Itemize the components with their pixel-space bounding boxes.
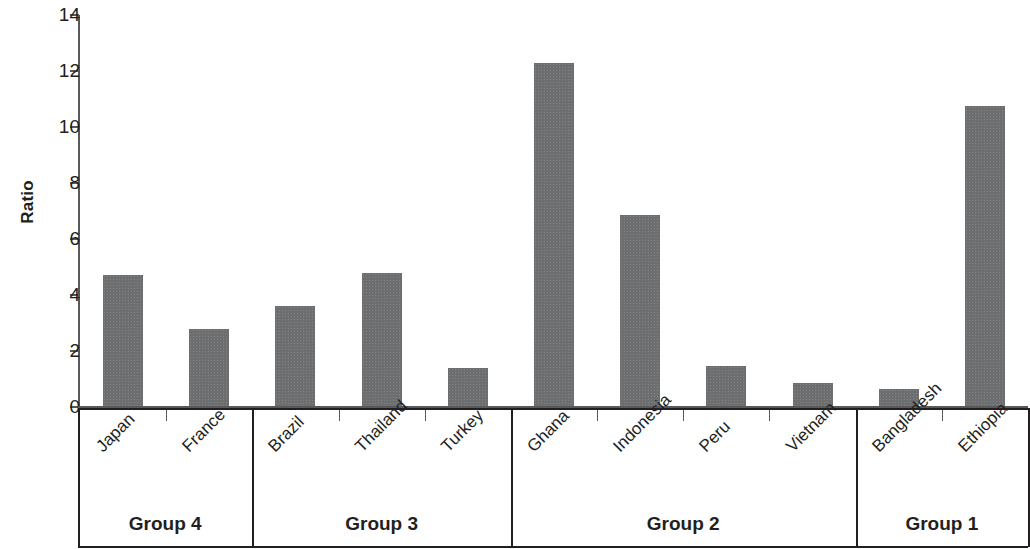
- x-axis-category-label: Turkey: [438, 407, 486, 455]
- bar: [189, 329, 229, 407]
- group-label: Group 4: [78, 513, 252, 535]
- x-axis-category-label: Brazil: [265, 413, 307, 455]
- bar: [275, 306, 315, 407]
- group-label: Group 3: [252, 513, 511, 535]
- bar-chart: Ratio 14121086420 JapanFranceBrazilThail…: [0, 0, 1030, 549]
- y-axis-tick-label: 10: [36, 117, 80, 136]
- y-axis-tick-label: 14: [36, 5, 80, 24]
- bar: [965, 106, 1005, 407]
- bar: [103, 275, 143, 407]
- y-axis-tick-label: 2: [36, 341, 80, 360]
- bar: [620, 215, 660, 407]
- x-axis-category-label: Ghana: [524, 407, 572, 455]
- y-axis-tick-label: 6: [36, 229, 80, 248]
- x-axis-category-label: France: [179, 406, 228, 455]
- y-axis-tick-label: 4: [36, 285, 80, 304]
- bar: [448, 368, 488, 407]
- y-axis-tick-label: 8: [36, 173, 80, 192]
- bar: [706, 366, 746, 407]
- plot-area: [80, 15, 1028, 407]
- x-axis-category-label: Peru: [696, 418, 733, 455]
- y-axis-tick-label: 0: [36, 397, 80, 416]
- bar: [534, 63, 574, 407]
- group-label: Group 1: [856, 513, 1028, 535]
- y-axis-title: Ratio: [18, 162, 38, 242]
- group-band-top-rule: [78, 408, 1028, 410]
- bar: [362, 273, 402, 407]
- group-label: Group 2: [511, 513, 856, 535]
- group-band-bottom-rule: [78, 546, 1028, 548]
- x-axis-category-label: Japan: [93, 410, 138, 455]
- y-axis-tick-label: 12: [36, 61, 80, 80]
